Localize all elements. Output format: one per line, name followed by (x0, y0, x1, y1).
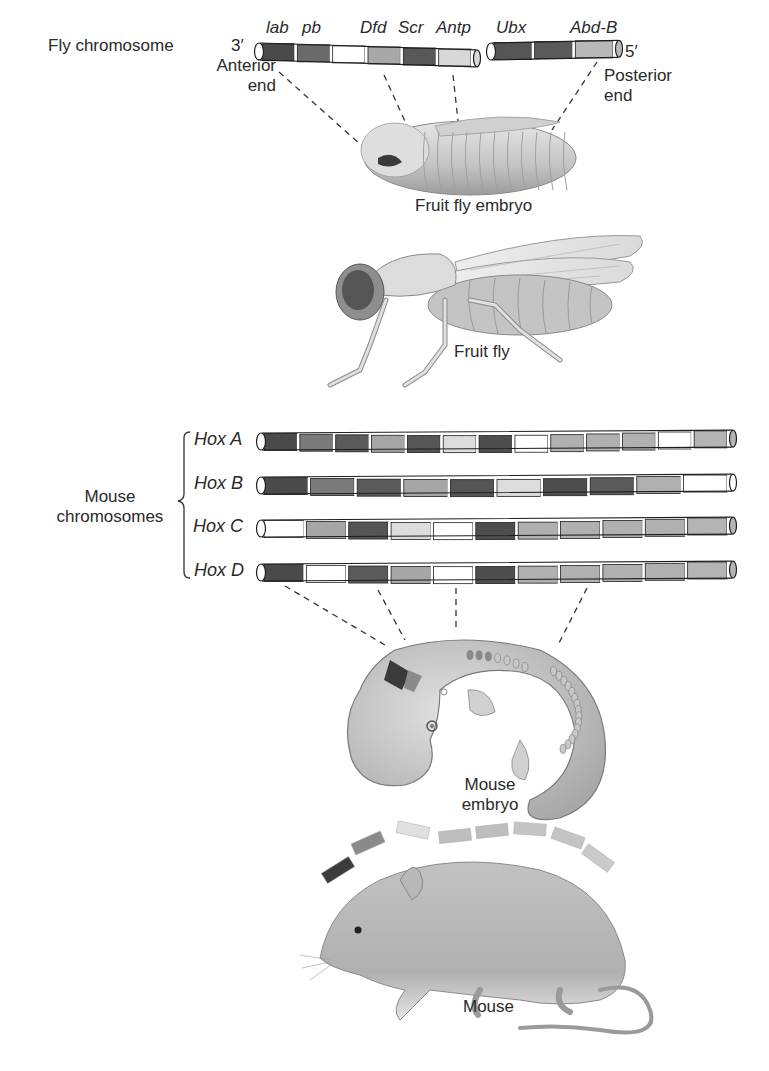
chromosome-band (551, 435, 584, 452)
fly-chromosome (255, 40, 623, 67)
chromosome-band (391, 566, 430, 583)
gene-label-scr: Scr (398, 18, 424, 38)
chromosome-band (407, 436, 440, 453)
chromosome-band (694, 431, 727, 448)
chromosome-band (518, 522, 557, 539)
chromosome-band (450, 480, 494, 497)
hox-gene-diagram: Fly chromosome 3′ 5′ lab pb Dfd Scr Antp… (0, 0, 769, 1071)
mouse-chromosomes (257, 430, 737, 584)
chromosome-band (497, 479, 541, 496)
mouse-embryo-label-line2: embryo (440, 795, 540, 815)
chromosome-end-cap (257, 433, 266, 450)
chromosome-band (561, 521, 600, 538)
chromosome-band (561, 565, 600, 582)
chromosome-band (433, 567, 472, 584)
fly-chromosome-segment-2 (487, 40, 623, 60)
chromosome-end-cap (257, 477, 266, 494)
chromosome-band (403, 48, 435, 65)
hox-c-label: Hox C (193, 516, 243, 537)
gene-label-dfd: Dfd (360, 18, 386, 38)
gene-label-abd-b: Abd-B (570, 18, 617, 38)
chromosome-end-cap (257, 564, 266, 581)
diagram-graphics (0, 0, 769, 1071)
chromosome-band (264, 478, 308, 495)
fly-embryo-label: Fruit fly embryo (415, 196, 532, 216)
body-plan-bar (351, 831, 385, 855)
body-plan-bar (475, 823, 508, 838)
posterior-end-label-line1: Posterior (604, 66, 672, 86)
chromosome-band (479, 436, 512, 453)
fruit-fly-label: Fruit fly (454, 342, 510, 362)
chromosome-end-cap (257, 520, 266, 537)
mouse-mapping-lines (285, 586, 587, 645)
chromosome-band (518, 566, 557, 583)
chromosome-band (264, 565, 303, 582)
chromosome-band (333, 46, 365, 63)
chromosome-band (368, 47, 400, 64)
mouse-embryo-label-line1: Mouse (440, 775, 540, 795)
hox-b-label: Hox B (194, 473, 243, 494)
hox-d-chromosome (257, 561, 737, 584)
fruit-fly-illustration (330, 236, 642, 385)
chromosome-band (264, 434, 297, 451)
chromosome-end-cap (730, 474, 737, 491)
chromosome-end-cap (616, 40, 623, 57)
chromosome-end-cap (730, 430, 737, 447)
chromosome-band (264, 521, 303, 538)
hox-d-label: Hox D (194, 560, 244, 581)
body-plan-bar (438, 828, 471, 843)
chromosome-band (300, 434, 333, 451)
fly-embryo-illustration (361, 117, 576, 195)
chromosome-end-cap (730, 517, 737, 534)
chromosome-band (476, 567, 515, 584)
gene-label-pb: pb (302, 18, 321, 38)
chromosome-band (306, 521, 345, 538)
chromosome-band (515, 435, 548, 452)
gene-label-ubx: Ubx (496, 18, 526, 38)
mouse-chromosomes-label-line1: Mouse (40, 487, 180, 507)
fly-chromosome-label: Fly chromosome (48, 36, 174, 56)
mouse-label: Mouse (463, 997, 514, 1017)
chromosome-band (443, 436, 476, 453)
chromosome-end-cap (487, 43, 496, 60)
body-plan-bar (582, 844, 615, 873)
chromosome-band (688, 562, 727, 579)
chromosome-end-cap (474, 50, 481, 67)
body-plan-bar (514, 822, 547, 836)
chromosome-band (391, 522, 430, 539)
chromosome-band (404, 480, 448, 497)
mouse-chromosomes-label-line2: chromosomes (40, 507, 180, 527)
chromosome-band (683, 475, 727, 492)
chromosome-band (433, 523, 472, 540)
body-plan-bar (321, 856, 354, 883)
hox-a-label: Hox A (194, 429, 242, 450)
body-plan-bar (551, 827, 585, 849)
gene-label-antp: Antp (436, 18, 471, 38)
chromosome-band (439, 49, 471, 66)
chromosome-band (575, 41, 613, 58)
fly-chromosome-5prime-label: 5′ (625, 42, 638, 62)
anterior-end-label-line2: end (190, 76, 276, 96)
posterior-end-label-line2: end (604, 86, 632, 106)
fly-chromosome-segment-1 (255, 43, 481, 67)
chromosome-band (688, 518, 727, 535)
chromosome-band (297, 45, 329, 62)
body-plan-bar (396, 821, 430, 839)
anterior-end-label-line1: Anterior (190, 56, 276, 76)
chromosome-band (306, 565, 345, 582)
chromosome-end-cap (730, 561, 737, 578)
hox-a-chromosome (257, 430, 737, 453)
chromosome-band (544, 479, 588, 496)
hox-c-chromosome (257, 517, 737, 540)
gene-label-lab: lab (266, 18, 289, 38)
chromosome-band (476, 523, 515, 540)
chromosome-band (645, 519, 684, 536)
chromosome-band (535, 42, 573, 59)
hox-b-chromosome (257, 474, 737, 497)
chromosome-band (494, 42, 532, 59)
fly-chromosome-3prime-label: 3′ (231, 36, 244, 56)
chromosome-band (645, 563, 684, 580)
chromosome-band (658, 432, 691, 449)
